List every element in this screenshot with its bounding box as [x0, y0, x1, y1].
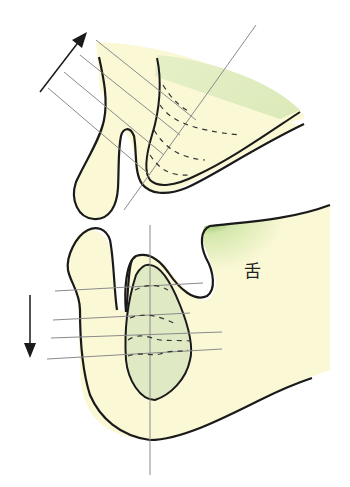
upper-jaw	[40, 25, 305, 219]
lower-direction-arrow	[24, 295, 36, 358]
upper-direction-arrow	[40, 32, 87, 92]
lower-jaw	[24, 205, 330, 475]
tongue-label: 舌	[244, 257, 261, 282]
dental-diagram	[0, 0, 350, 487]
